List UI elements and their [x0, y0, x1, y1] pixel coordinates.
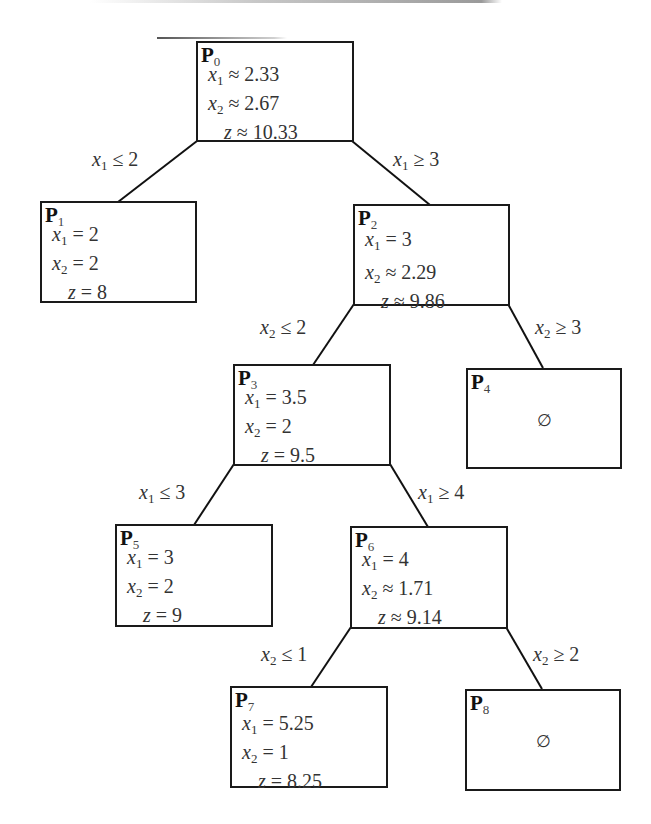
- node-x2-value: x2 ≈ 2.29: [365, 261, 445, 290]
- empty-set-symbol: ∅: [468, 410, 620, 430]
- edge-label-p3-p5: x1 ≤ 3: [139, 481, 185, 507]
- node-p7: P7 x1 = 5.25 x2 = 1 z = 8.25: [230, 686, 388, 788]
- edge-p6-p7: [311, 627, 351, 687]
- edge-label-p3-p6: x1 ≥ 4: [418, 481, 464, 507]
- node-p2: P2 x1 = 3 x2 ≈ 2.29 z ≈ 9.86: [353, 204, 510, 306]
- node-z-value: z = 9: [127, 604, 182, 626]
- edge-label-p0-p2: x1 ≥ 3: [393, 148, 439, 174]
- node-z-value: z = 8.25: [242, 770, 322, 792]
- edge-label-p2-p4: x2 ≥ 3: [535, 316, 581, 342]
- edge-label-p0-p1: x1 ≤ 2: [92, 148, 138, 174]
- node-z-value: z ≈ 9.14: [362, 606, 442, 628]
- node-z-value: z = 8: [52, 281, 107, 303]
- node-title: P8: [470, 691, 489, 718]
- edge-label-p6-p8: x2 ≥ 2: [533, 643, 579, 669]
- node-x2-value: x2 ≈ 1.71: [362, 577, 442, 606]
- empty-set-symbol: ∅: [467, 731, 619, 751]
- node-p5: P5 x1 = 3 x2 = 2 z = 9: [115, 524, 273, 627]
- node-x1-value: x1 = 3: [127, 546, 182, 575]
- edge-p2-p3: [313, 304, 354, 365]
- node-x1-value: x1 ≈ 2.33: [208, 63, 298, 92]
- node-x1-value: x1 = 3: [365, 228, 445, 257]
- node-p1: P1 x1 = 2 x2 = 2 z = 8: [40, 201, 197, 303]
- node-x1-value: x1 = 5.25: [242, 712, 322, 741]
- node-z-value: z = 9.5: [245, 444, 315, 466]
- node-p6: P6 x1 = 4 x2 ≈ 1.71 z ≈ 9.14: [350, 526, 508, 629]
- edge-label-p2-p3: x2 ≤ 2: [260, 316, 306, 342]
- node-p8: P8 ∅: [465, 689, 621, 791]
- node-p0: P0 x1 ≈ 2.33 x2 ≈ 2.67 z ≈ 10.33: [196, 41, 354, 142]
- node-x2-value: x2 = 2: [127, 575, 182, 604]
- node-title: P7: [235, 688, 254, 715]
- node-x2-value: x2 ≈ 2.67: [208, 92, 298, 121]
- node-z-value: z ≈ 10.33: [208, 121, 298, 143]
- node-x2-value: x2 = 2: [245, 415, 315, 444]
- node-x2-value: x2 = 1: [242, 741, 322, 770]
- node-x1-value: x1 = 3.5: [245, 386, 315, 415]
- node-p3: P3 x1 = 3.5 x2 = 2 z = 9.5: [233, 364, 391, 466]
- node-title: P4: [471, 370, 490, 397]
- node-x2-value: x2 = 2: [52, 252, 107, 281]
- edge-p3-p5: [194, 464, 234, 525]
- node-z-value: z ≈ 9.86: [365, 290, 445, 312]
- node-x1-value: x1 = 4: [362, 548, 442, 577]
- node-x1-value: x1 = 2: [52, 223, 107, 252]
- edge-label-p6-p7: x2 ≤ 1: [261, 643, 307, 669]
- node-p4: P4 ∅: [466, 368, 622, 469]
